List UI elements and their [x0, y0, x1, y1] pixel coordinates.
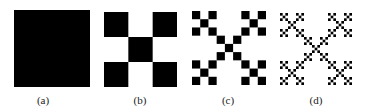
fractal-iteration-0	[14, 10, 90, 87]
caption-a: (a)	[23, 94, 63, 106]
caption-d: (d)	[296, 94, 336, 106]
fractal-iteration-1	[104, 12, 177, 87]
fractal-iteration-2	[192, 11, 266, 85]
caption-c: (c)	[208, 94, 248, 106]
fractal-iteration-3	[280, 13, 352, 85]
caption-b: (b)	[120, 94, 160, 106]
